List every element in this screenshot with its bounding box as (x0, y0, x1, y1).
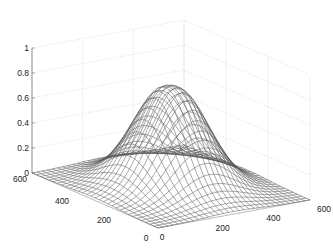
grid-line (83, 164, 209, 219)
z-tick-label: 0.4 (17, 118, 29, 128)
x-tick-label: 400 (266, 213, 280, 223)
z-tick-label: 0.8 (17, 68, 29, 78)
y-tick-label: 600 (13, 174, 27, 184)
mesh-line (91, 85, 243, 196)
y-tick-label: 200 (97, 215, 111, 225)
mesh-line (62, 165, 188, 222)
grid-line (184, 20, 310, 75)
grid-line (32, 95, 184, 123)
surface-plot: 00.20.40.60.8102004006000200400600 (0, 0, 333, 249)
mesh-line (159, 149, 285, 204)
x-tick-label: 600 (317, 204, 331, 214)
z-tick-label: 1 (24, 43, 29, 53)
grid-line (32, 20, 184, 48)
y-tick-label: 400 (55, 196, 69, 206)
grid-line (184, 45, 310, 100)
z-tick-label: 0.6 (17, 93, 29, 103)
grid-line (32, 70, 184, 98)
z-tick-label: 0.2 (17, 143, 29, 153)
axis-grid (32, 20, 310, 228)
x-axis-line (158, 200, 310, 228)
grid-line (184, 120, 310, 175)
x-tick-label: 200 (216, 223, 230, 233)
axes-box (32, 48, 310, 228)
x-tick-label: 0 (160, 232, 165, 242)
grid-line (32, 45, 184, 73)
y-tick-label: 0 (144, 233, 149, 243)
tick-labels: 00.20.40.60.8102004006000200400600 (13, 43, 331, 243)
